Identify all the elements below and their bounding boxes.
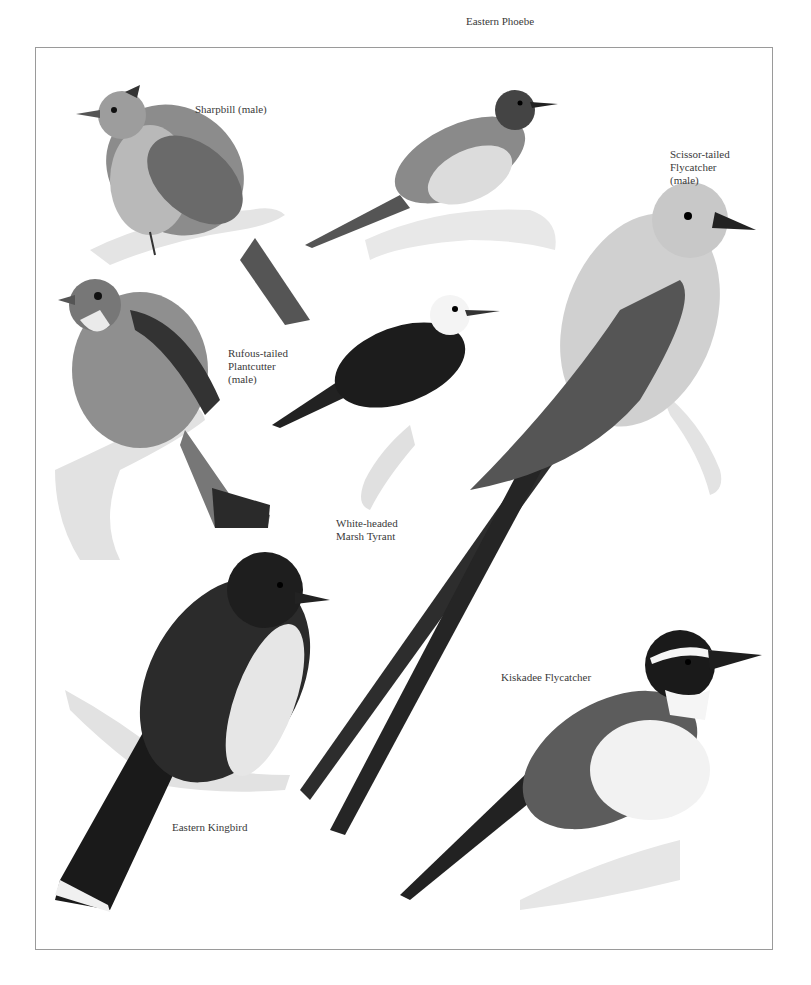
plantcutter-illustration (55, 279, 270, 560)
label-white-headed-marsh-tyrant: White-headed Marsh Tyrant (336, 517, 398, 543)
label-rufous-tailed-plantcutter: Rufous-tailed Plantcutter (male) (228, 347, 288, 386)
label-eastern-phoebe: Eastern Phoebe (466, 15, 534, 28)
label-eastern-kingbird: Eastern Kingbird (172, 821, 247, 834)
eastern-phoebe-illustration (305, 90, 558, 260)
eastern-kingbird-illustration (55, 547, 345, 912)
marsh-tyrant-illustration (272, 295, 500, 510)
label-kiskadee-flycatcher: Kiskadee Flycatcher (501, 671, 591, 684)
label-scissor-tailed-flycatcher: Scissor-tailed Flycatcher (male) (670, 148, 730, 187)
label-sharpbill: Sharpbill (male) (195, 103, 267, 116)
